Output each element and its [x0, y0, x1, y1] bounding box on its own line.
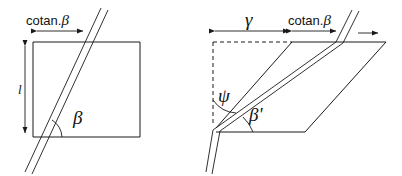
left-beta-angle-label: β	[73, 108, 82, 127]
left-cotan-text: cotan.	[26, 13, 61, 28]
left-cotan-beta-label: cotan.β	[26, 13, 69, 28]
inclined-band-left	[25, 8, 108, 174]
beta-prime-angle-label: β'	[249, 105, 263, 124]
right-cotan-beta-label: cotan.β	[288, 13, 331, 28]
psi-angle-label: ψ	[218, 86, 230, 105]
figure-container: cotan.β l β γ cotan.β ψ β'	[0, 0, 402, 176]
left-length-label: l	[18, 83, 22, 96]
right-cotan-beta-symbol: β	[323, 12, 330, 28]
left-cotan-beta-symbol: β	[61, 12, 68, 28]
parallelogram-outline	[216, 42, 386, 132]
left-diagram-group	[25, 8, 140, 174]
right-cotan-text: cotan.	[288, 13, 323, 28]
gamma-label: γ	[245, 10, 253, 29]
right-diagram-group	[206, 10, 386, 174]
